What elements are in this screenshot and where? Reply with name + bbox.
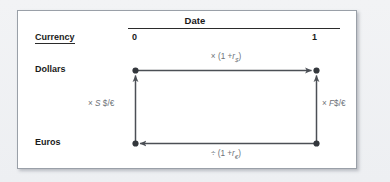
edge-right-operator: × (322, 99, 327, 108)
edge-top-operator: × (211, 52, 216, 61)
edge-left-symbol: S (95, 99, 100, 108)
edge-label-bottom: ÷ (1 +r€) (0, 149, 390, 160)
node-euros-date0 (132, 140, 138, 146)
figure-root: Date 0 1 Currency Dollars Euros (0, 0, 390, 182)
diagram-stage: Date 0 1 Currency Dollars Euros (0, 0, 390, 182)
edge-left-operator: × (88, 99, 93, 108)
edge-left-units: $/€ (103, 99, 114, 108)
edge-bottom-operator: ÷ (211, 149, 216, 158)
edge-bottom-close: ) (238, 149, 241, 158)
node-euros-date1 (313, 140, 319, 146)
edge-label-right: × F$/€ (322, 99, 345, 108)
edge-label-left: × S $/€ (88, 99, 114, 108)
edge-bottom-open: (1 + (218, 149, 232, 158)
edge-right-units: $/€ (334, 99, 345, 108)
edge-label-top: × (1 +r$) (0, 52, 390, 63)
edge-top-open: (1 + (218, 52, 232, 61)
node-dollars-date0 (132, 67, 138, 73)
node-dollars-date1 (313, 67, 319, 73)
edge-top-close: ) (238, 52, 241, 61)
